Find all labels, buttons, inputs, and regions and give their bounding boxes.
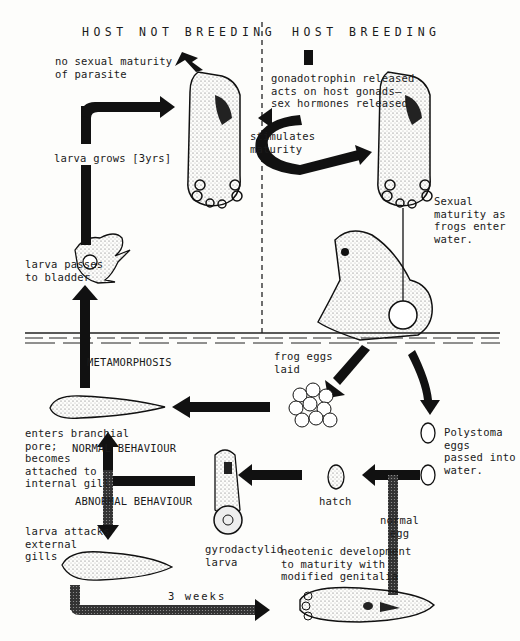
- tadpole-upper-icon: [50, 396, 165, 418]
- label-three-weeks: 3 weeks: [168, 590, 226, 603]
- header-host-breeding: HOST BREEDING: [292, 25, 441, 39]
- adult-frog-icon: [318, 231, 432, 340]
- label-enters-branchial: enters branchial pore; becomes attached …: [25, 427, 129, 490]
- label-no-maturity: no sexual maturity of parasite: [55, 55, 172, 80]
- label-sexual-maturity: Sexual maturity as frogs enter water.: [434, 195, 506, 245]
- label-hatch: hatch: [319, 495, 352, 508]
- water-surface: [25, 333, 500, 343]
- polystoma-egg-2: [421, 465, 435, 485]
- label-gyrodactylid: gyrodactylid larva: [205, 543, 283, 568]
- frog-eggs-icon: [289, 383, 337, 427]
- label-larva-attacks: larva attacks external gills: [25, 525, 110, 563]
- header-host-not-breeding: HOST NOT BREEDING: [82, 25, 276, 39]
- label-frog-eggs: frog eggs laid: [274, 350, 333, 375]
- hatching-egg-icon: [328, 465, 344, 489]
- label-normal-egg: normal egg: [380, 514, 419, 539]
- label-metamorphosis: METAMORPHOSIS: [87, 356, 172, 369]
- neotenic-adult-icon: [300, 588, 434, 623]
- gyrodactylid-larva-icon: [214, 450, 242, 534]
- label-abnormal-behaviour: ABNORMAL BEHAVIOUR: [75, 495, 192, 508]
- label-normal-behaviour: NORMAL BEHAVIOUR: [72, 442, 176, 455]
- label-gonadotrophin: gonadotrophin released acts on host gona…: [271, 72, 414, 110]
- polystoma-egg-1: [421, 423, 435, 443]
- label-larva-grows: larva grows [3yrs]: [54, 152, 171, 165]
- label-polystoma-eggs: Polystoma eggs passed into water.: [444, 426, 516, 476]
- label-stimulates: stimulates maturity: [250, 130, 315, 155]
- label-larva-passes: larva passes to bladder: [25, 258, 103, 283]
- parasite-left-icon: [188, 72, 242, 208]
- label-neotenic: neotenic development to maturity with mo…: [281, 545, 411, 583]
- gonadotrophin-marker: [304, 50, 313, 65]
